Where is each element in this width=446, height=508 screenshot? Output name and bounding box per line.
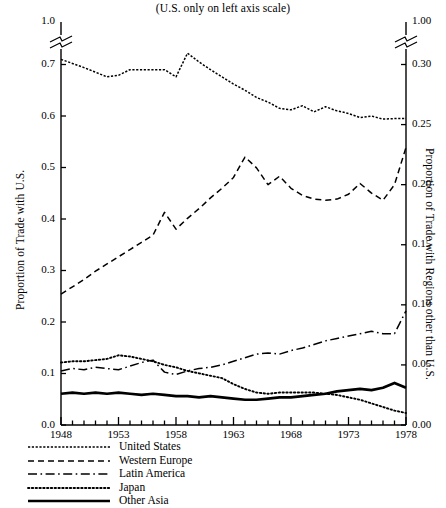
right-tick-label-5: 0.25 xyxy=(412,117,431,129)
series-line-western-europe xyxy=(61,147,406,294)
right-tick-label-4: 0.20 xyxy=(412,177,431,189)
right-tick-label-1: 0.05 xyxy=(412,357,431,369)
left-tick-label-8: 1.0 xyxy=(0,14,55,26)
right-tick-label-3: 0.15 xyxy=(412,237,431,249)
right-axis-break-icon xyxy=(395,35,417,49)
legend-item-latin-america[interactable]: Latin America xyxy=(26,467,326,481)
legend-swatch-solid-icon xyxy=(26,494,112,508)
legend-label: United States xyxy=(112,440,181,454)
series-line-latin-america xyxy=(61,311,406,375)
x-tick-label-1978: 1978 xyxy=(382,428,430,440)
left-tick-label-5: 0.5 xyxy=(0,160,55,172)
x-tick-label-1948: 1948 xyxy=(37,428,85,440)
chart-legend: United StatesWestern EuropeLatin America… xyxy=(26,440,326,508)
x-tick-label-1958: 1958 xyxy=(152,428,200,440)
legend-label: Western Europe xyxy=(112,454,192,468)
left-axis-break-icon xyxy=(50,35,72,49)
left-tick-label-2: 0.2 xyxy=(0,315,55,327)
x-tick-label-1973: 1973 xyxy=(325,428,373,440)
legend-item-japan[interactable]: Japan xyxy=(26,481,326,495)
series-line-japan xyxy=(61,355,406,413)
legend-item-united-states[interactable]: United States xyxy=(26,440,326,454)
left-tick-label-1: 0.1 xyxy=(0,366,55,378)
left-tick-label-3: 0.3 xyxy=(0,263,55,275)
x-tick-label-1968: 1968 xyxy=(267,428,315,440)
legend-item-other-asia[interactable]: Other Asia xyxy=(26,494,326,508)
right-tick-label-2: 0.10 xyxy=(412,297,431,309)
legend-label: Latin America xyxy=(112,467,185,481)
legend-swatch-dashed-icon xyxy=(26,454,112,468)
x-tick-label-1963: 1963 xyxy=(210,428,258,440)
legend-swatch-fine-dot-icon xyxy=(26,440,112,454)
series-line-other-asia xyxy=(61,383,406,400)
left-tick-label-4: 0.4 xyxy=(0,212,55,224)
legend-swatch-dotted-icon xyxy=(26,481,112,495)
left-tick-label-7: 0.7 xyxy=(0,57,55,69)
series-line-united-states xyxy=(61,53,406,119)
right-tick-label-6: 0.30 xyxy=(412,57,431,69)
left-tick-label-6: 0.6 xyxy=(0,109,55,121)
legend-label: Other Asia xyxy=(112,494,169,508)
legend-swatch-dash-dot-icon xyxy=(26,467,112,481)
chart-plot-area xyxy=(0,0,446,446)
legend-item-western-europe[interactable]: Western Europe xyxy=(26,454,326,468)
x-tick-label-1953: 1953 xyxy=(95,428,143,440)
right-tick-label-7: 1.00 xyxy=(412,14,431,26)
legend-label: Japan xyxy=(112,481,145,495)
